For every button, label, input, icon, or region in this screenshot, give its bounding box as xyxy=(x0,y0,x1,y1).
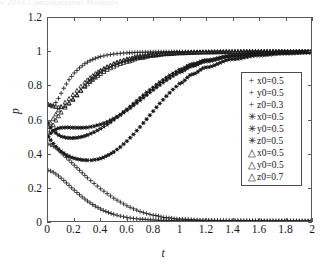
y-axis-tick xyxy=(308,85,312,86)
y-axis-tick xyxy=(308,188,312,189)
plus-marker-icon: + xyxy=(246,89,257,99)
asterisk-marker-icon: ✳ xyxy=(246,113,257,123)
x-axis-tick xyxy=(127,218,128,222)
x-axis-tick xyxy=(286,218,287,222)
legend-entry-label: x0=0.5 xyxy=(257,149,284,159)
y-axis-tick-label: 0.4 xyxy=(10,149,42,161)
x-axis-tick xyxy=(153,17,154,21)
legend-entry[interactable]: +x0=0.5 xyxy=(242,76,301,88)
x-axis-tick-label: 0.8 xyxy=(138,224,168,236)
y-axis-tick xyxy=(47,85,51,86)
x-axis-tick-label: 0.6 xyxy=(112,224,142,236)
legend-entry[interactable]: △x0=0.5 xyxy=(242,148,301,160)
x-axis-tick-label: 1.2 xyxy=(191,224,221,236)
triangle-marker-icon: △ xyxy=(246,149,257,159)
legend-entry[interactable]: ✳z0=0.5 xyxy=(242,136,301,148)
y-axis-tick-label: 0 xyxy=(10,217,42,229)
asterisk-marker-icon: ✳ xyxy=(246,137,257,147)
x-axis-tick xyxy=(259,218,260,222)
legend-entry-label: y0=0.5 xyxy=(257,89,284,99)
x-axis-tick xyxy=(127,17,128,21)
legend-entry-label: x0=0.5 xyxy=(257,113,284,123)
triangle-marker-icon: △ xyxy=(246,173,257,183)
y-axis-tick xyxy=(47,17,51,18)
y-axis-tick-label: 0.8 xyxy=(10,80,42,92)
plus-marker-icon: + xyxy=(246,77,257,87)
x-axis-tick xyxy=(312,218,313,222)
x-axis-tick xyxy=(206,218,207,222)
x-axis-title: t xyxy=(0,247,326,259)
y-axis-tick xyxy=(47,154,51,155)
legend-entry-label: y0=0.5 xyxy=(257,125,284,135)
y-axis-tick-label: 1 xyxy=(10,46,42,58)
y-axis-tick xyxy=(308,154,312,155)
x-axis-tick xyxy=(74,218,75,222)
x-axis-tick xyxy=(180,218,181,222)
y-axis-tick xyxy=(308,51,312,52)
legend-entry[interactable]: +y0=0.5 xyxy=(242,88,301,100)
legend-entry[interactable]: ✳x0=0.5 xyxy=(242,112,301,124)
x-axis-tick xyxy=(74,17,75,21)
legend-entry[interactable]: +z0=0.3 xyxy=(242,100,301,112)
y-axis-tick-label: 1.2 xyxy=(10,12,42,24)
y-axis-title: p xyxy=(9,108,21,114)
legend-entry-label: y0=0.5 xyxy=(257,161,284,171)
x-axis-tick-label: 1 xyxy=(165,224,195,236)
legend-entry-label: z0=0.5 xyxy=(257,137,283,147)
x-axis-tick xyxy=(233,218,234,222)
legend-entry-label: x0=0.5 xyxy=(257,77,284,87)
legend-entry[interactable]: △y0=0.5 xyxy=(242,160,301,172)
legend-box: +x0=0.5+y0=0.5+z0=0.3✳x0=0.5✳y0=0.5✳z0=0… xyxy=(241,72,302,186)
x-axis-tick xyxy=(100,218,101,222)
x-axis-tick-label: 1.6 xyxy=(244,224,274,236)
x-axis-tick-label: 1.8 xyxy=(271,224,301,236)
y-axis-tick xyxy=(47,188,51,189)
legend-entry[interactable]: △z0=0.7 xyxy=(242,172,301,184)
y-axis-tick-label: 0.6 xyxy=(10,115,42,127)
x-axis-tick xyxy=(233,17,234,21)
plus-marker-icon: + xyxy=(246,101,257,111)
x-axis-tick xyxy=(153,218,154,222)
page-header-fragment: v 2014 Computational Methods xyxy=(0,0,326,6)
legend-entry[interactable]: ✳y0=0.5 xyxy=(242,124,301,136)
x-axis-tick xyxy=(180,17,181,21)
y-axis-tick xyxy=(47,51,51,52)
y-axis-tick xyxy=(308,120,312,121)
x-axis-tick-label: 0.2 xyxy=(59,224,89,236)
y-axis-tick xyxy=(308,17,312,18)
x-axis-tick xyxy=(259,17,260,21)
x-axis-tick xyxy=(100,17,101,21)
x-axis-tick-label: 2 xyxy=(297,224,326,236)
asterisk-marker-icon: ✳ xyxy=(246,125,257,135)
legend-entry-label: z0=0.7 xyxy=(257,173,283,183)
x-axis-tick xyxy=(312,17,313,21)
x-axis-tick-label: 0.4 xyxy=(85,224,115,236)
figure-root: v 2014 Computational Methods 00.20.40.60… xyxy=(0,0,326,273)
x-axis-tick xyxy=(206,17,207,21)
y-axis-tick xyxy=(47,120,51,121)
x-axis-tick-label: 1.4 xyxy=(218,224,248,236)
x-axis-tick xyxy=(286,17,287,21)
legend-entry-label: z0=0.3 xyxy=(257,101,283,111)
triangle-marker-icon: △ xyxy=(246,161,257,171)
y-axis-tick-label: 0.2 xyxy=(10,183,42,195)
